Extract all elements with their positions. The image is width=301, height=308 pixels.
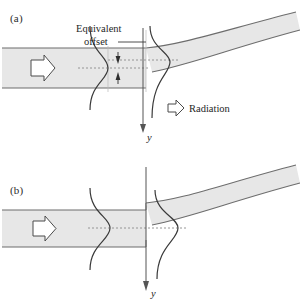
- straight-waveguide-fill: [2, 48, 146, 88]
- radiation-label: Radiation: [189, 103, 231, 114]
- curved-waveguide-fill: [146, 12, 300, 72]
- straight-waveguide-fill: [2, 210, 146, 247]
- y-axis-arrow-icon: [140, 124, 146, 133]
- y-axis-label: y: [150, 288, 156, 299]
- radiation-arrow-hollow-icon: [168, 100, 184, 116]
- panel-b-diagram: y: [0, 155, 301, 308]
- y-axis-arrow-icon: [143, 281, 149, 291]
- equivalent-offset-line2: offset: [84, 36, 108, 47]
- panel-a-diagram: y Equivalent offset Radiation: [0, 0, 301, 155]
- figure-root: (a): [0, 0, 301, 308]
- equivalent-offset-line1: Equivalent: [76, 23, 122, 34]
- y-axis-label: y: [146, 132, 152, 143]
